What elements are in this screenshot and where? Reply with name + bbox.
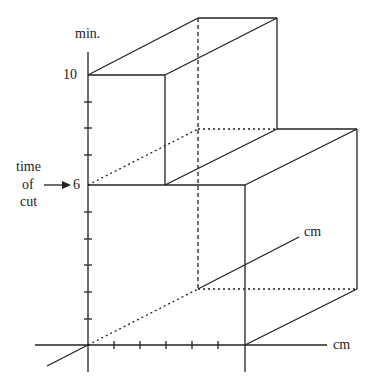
arrow-head-icon <box>62 181 71 189</box>
cut-label: cut <box>20 195 37 209</box>
diagram: min. 10 6 time of cut cm cm <box>0 0 377 388</box>
time-label: time <box>16 160 41 174</box>
depth-axis-front <box>47 345 88 366</box>
x-axis-unit-label: cm <box>333 338 350 352</box>
lower-box <box>88 129 357 372</box>
y-axis-unit-label: min. <box>75 27 100 41</box>
upper-box <box>88 18 277 185</box>
y-tick-6-label: 6 <box>73 178 80 192</box>
spacetime-box-diagram <box>0 0 377 388</box>
depth-axis-visible <box>198 237 299 289</box>
of-label: of <box>22 178 34 192</box>
y-tick-10-label: 10 <box>63 68 77 82</box>
depth-axis-hidden <box>88 289 198 345</box>
depth-axis-unit-label: cm <box>304 225 321 239</box>
